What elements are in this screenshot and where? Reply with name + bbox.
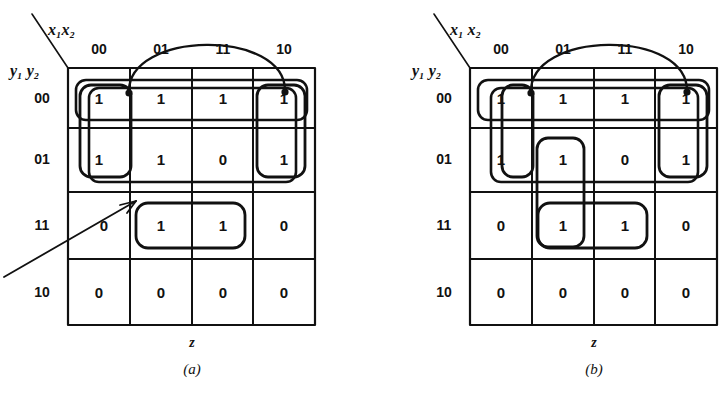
loop-b-col00-rows0001 [502, 85, 533, 177]
kmap-a-graphics [0, 0, 362, 393]
col-header-a-1: 01 [141, 42, 181, 56]
column-variable-label-b: x₁ x₂ [450, 22, 481, 38]
wrap-arc-b-dot-left [527, 89, 534, 96]
row-header-b-3: 10 [424, 285, 464, 299]
row-header-b-2: 11 [424, 218, 464, 232]
col-header-b-0: 00 [481, 42, 521, 56]
row-header-a-1: 01 [22, 152, 62, 166]
row-header-a-3: 10 [22, 285, 62, 299]
loop-a-row11-col0111 [136, 203, 245, 248]
loop-b-col10-rows0001 [659, 85, 707, 177]
karnaugh-map-b: x₁ x₂ y₁ y₂ 00 01 11 10 00 01 11 10 1 1 … [362, 0, 724, 393]
row-header-a-2: 11 [22, 218, 62, 232]
column-variable-label-a: x₁x₂ [48, 22, 75, 38]
col-header-a-0: 00 [79, 42, 119, 56]
caption-b: (b) [564, 362, 624, 377]
loop-a-col00-rows0001 [80, 85, 131, 177]
output-label-b: z [574, 336, 614, 350]
kmap-b-graphics [362, 0, 724, 393]
row-variable-label-b: y₁ y₂ [412, 63, 441, 79]
figure-root: x₁x₂ y₁ y₂ 00 01 11 10 00 01 11 10 1 1 1… [0, 0, 724, 393]
output-label-a: z [172, 336, 212, 350]
pointer-arrow-a-head [120, 201, 136, 213]
loop-a-col10-rows0001 [257, 85, 305, 177]
wrap-arc-b-dot-right [683, 88, 690, 95]
col-header-b-1: 01 [543, 42, 583, 56]
col-header-a-3: 10 [264, 42, 304, 56]
pointer-arrow-a-shaft [4, 201, 136, 277]
col-header-b-2: 11 [605, 42, 645, 56]
row-header-b-0: 00 [424, 91, 464, 105]
wrap-arc-a-dot-left [125, 89, 132, 96]
col-header-b-3: 10 [666, 42, 706, 56]
loop-b-row11-col0111 [538, 203, 647, 248]
caption-a: (a) [162, 362, 222, 377]
wrap-arc-a-dot-right [281, 88, 288, 95]
row-header-a-0: 00 [22, 91, 62, 105]
col-header-a-2: 11 [203, 42, 243, 56]
row-variable-label-a: y₁ y₂ [10, 63, 39, 79]
row-header-b-1: 01 [424, 152, 464, 166]
karnaugh-map-a: x₁x₂ y₁ y₂ 00 01 11 10 00 01 11 10 1 1 1… [0, 0, 362, 393]
